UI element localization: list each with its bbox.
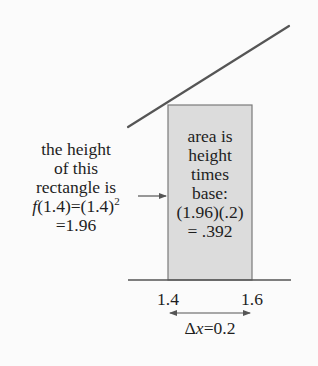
area-annotation-line-3: times — [168, 165, 252, 184]
tick-label-right: 1.6 — [232, 289, 272, 310]
area-annotation: area is height times base: (1.96)(.2) = … — [168, 127, 252, 241]
tick-label-left: 1.4 — [148, 289, 188, 310]
area-annotation-line-6: = .392 — [168, 222, 252, 241]
delta-symbol: Δ — [185, 318, 196, 338]
area-annotation-line-5: (1.96)(.2) — [168, 203, 252, 222]
height-formula: f(1.4)=(1.4)2 — [10, 197, 142, 216]
area-annotation-line-1: area is — [168, 127, 252, 146]
height-formula-body: (1.4)=(1.4) — [37, 196, 114, 216]
area-annotation-line-4: base: — [168, 184, 252, 203]
height-annotation: the height of this rectangle is f(1.4)=(… — [10, 140, 142, 235]
delta-value: =0.2 — [204, 318, 236, 338]
height-result: =1.96 — [10, 216, 142, 235]
delta-x-label: Δx=0.2 — [170, 318, 250, 339]
height-formula-exponent: 2 — [114, 195, 120, 207]
height-annotation-line-1: the height — [10, 140, 142, 159]
delta-variable: x — [196, 318, 204, 338]
area-annotation-line-2: height — [168, 146, 252, 165]
height-annotation-line-2: of this — [10, 159, 142, 178]
height-annotation-line-3: rectangle is — [10, 178, 142, 197]
